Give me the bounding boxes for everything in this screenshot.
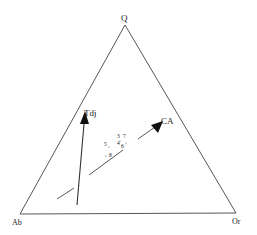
ternary-diagram: Q Ab Or Tdj CA 3 7 4 6 5 8 [0, 0, 257, 235]
sample-label: 8 [109, 152, 112, 158]
vertex-label-q: Q [121, 13, 128, 23]
ternary-triangle [20, 25, 236, 214]
ca-trend-arrow [57, 121, 163, 199]
vertex-label-ab: Ab [12, 218, 22, 227]
vertex-label-or: Or [232, 217, 241, 226]
sample-label: 5 [104, 141, 107, 147]
tdj-trend-arrow [77, 111, 89, 205]
sample-label: 3 [117, 133, 120, 139]
ca-label: CA [161, 116, 174, 126]
sample-label: 7 [123, 133, 126, 139]
sample-label: 6 [121, 143, 124, 149]
tdj-label: Tdj [84, 108, 97, 118]
sample-points: 3 7 4 6 5 8 [104, 133, 127, 158]
